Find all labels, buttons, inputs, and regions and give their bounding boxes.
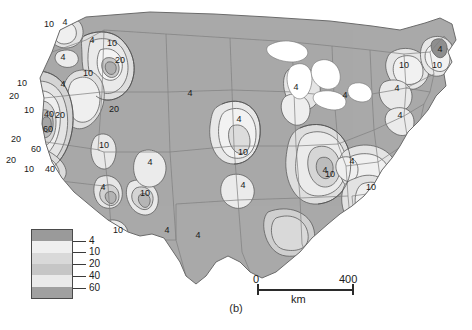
contour-label: 20: [109, 104, 119, 114]
contour-label: 4: [394, 83, 399, 93]
legend-tick-mark: [73, 241, 86, 242]
contour-label: 10: [399, 60, 409, 70]
figure-panel: 1044102041041020104020602060201040201041…: [0, 0, 472, 330]
contour-label: 40: [45, 164, 55, 174]
contour-label: 10: [83, 68, 93, 78]
contour-label: 10: [44, 19, 54, 29]
contour-label: 4: [60, 52, 65, 62]
contour-label: 20: [6, 155, 16, 165]
contour-label: 10: [366, 182, 376, 192]
contour-label: 10: [99, 140, 109, 150]
contour-label: 20: [11, 134, 21, 144]
contour-label: 4: [187, 88, 192, 98]
contour-label: 4: [437, 44, 442, 54]
contour-label: 4: [349, 156, 354, 166]
contour-label: 40: [44, 109, 54, 119]
contour-label: 10: [24, 164, 34, 174]
contour-label: 10: [140, 188, 150, 198]
contour-label: 60: [31, 144, 41, 154]
figure-caption: (b): [0, 302, 472, 314]
legend-tick-mark: [73, 276, 86, 277]
legend-band-2: [32, 253, 72, 264]
legend-tick-mark: [73, 252, 86, 253]
legend-tick-mark: [73, 288, 86, 289]
contour-label: 4: [100, 182, 105, 192]
contour-label: 4: [89, 35, 94, 45]
scale-bar-min-label: 0: [253, 273, 259, 285]
scale-bar-tick-start: [257, 284, 259, 295]
scale-bar-line: [257, 289, 353, 291]
legend-band-0: [32, 230, 72, 241]
legend-band-1: [32, 241, 72, 252]
contour-label: 4: [62, 17, 67, 27]
shading-legend: 4 10 20 40 60: [31, 229, 123, 301]
contour-label: 4: [147, 157, 152, 167]
contour-label: 20: [9, 91, 19, 101]
legend-color-box: [31, 229, 73, 299]
contour-label: 4: [293, 82, 298, 92]
contour-label: 20: [115, 55, 125, 65]
contour-label: 4: [236, 114, 241, 124]
contour-label: 4: [397, 110, 402, 120]
contour-label: 4: [60, 79, 65, 89]
contour-label: 10: [432, 60, 442, 70]
contour-label: 4: [164, 225, 169, 235]
contour-label: 60: [43, 124, 53, 134]
contour-label: 10: [17, 78, 27, 88]
legend-band-3: [32, 264, 72, 275]
contour-label: 10: [325, 169, 335, 179]
contour-label: 10: [238, 147, 248, 157]
contour-label: 4: [195, 230, 200, 240]
contour-label: 20: [55, 110, 65, 120]
contour-label: 10: [107, 38, 117, 48]
legend-tick-mark: [73, 264, 86, 265]
contour-label: 10: [24, 105, 34, 115]
legend-band-5: [32, 287, 72, 298]
legend-tick-label: 60: [89, 281, 100, 294]
contour-label: 4: [342, 90, 347, 100]
contour-label: 4: [240, 180, 245, 190]
scale-bar-max-label: 400: [339, 273, 357, 285]
legend-band-4: [32, 275, 72, 286]
scale-bar-tick-end: [352, 284, 354, 295]
